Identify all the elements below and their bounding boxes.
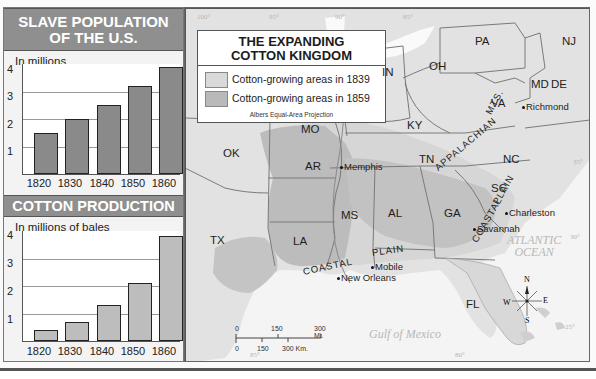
state-label-fl: FL bbox=[466, 298, 479, 310]
state-label-oh: OH bbox=[429, 60, 446, 72]
slave-population-chart bbox=[22, 64, 180, 175]
cotton-ytick-1: 1 bbox=[3, 313, 13, 325]
cotton-ytick-2: 2 bbox=[3, 285, 13, 297]
slave-xtick: 1830 bbox=[55, 177, 85, 189]
state-label-md: MD bbox=[531, 78, 549, 90]
top-strip bbox=[0, 0, 596, 7]
bottom-rule bbox=[0, 368, 596, 379]
gridline bbox=[23, 286, 180, 287]
slave-ytick-1: 1 bbox=[3, 145, 13, 157]
cotton-xtick: 1850 bbox=[118, 345, 148, 357]
scale-mi-150: 150 bbox=[271, 325, 283, 332]
state-label-ar: AR bbox=[305, 160, 321, 172]
bottom-80: 80° bbox=[455, 351, 465, 359]
charts-panel: SLAVE POPULATION OF THE U.S. In millions… bbox=[3, 7, 184, 362]
map-legend: THE EXPANDING COTTON KINGDOM Cotton-grow… bbox=[197, 30, 386, 123]
scale-km-0: 0 bbox=[235, 345, 239, 352]
slave-chart-title-line2: OF THE U.S. bbox=[4, 30, 183, 46]
state-label-in: IN bbox=[382, 66, 394, 78]
bar-1830 bbox=[65, 322, 89, 341]
gridline bbox=[23, 92, 180, 93]
longitude-85: 85° bbox=[403, 13, 413, 21]
cotton-ytick-4: 4 bbox=[3, 229, 13, 241]
legend-divider bbox=[198, 65, 385, 66]
cotton-xtick: 1820 bbox=[24, 345, 54, 357]
bar-1820 bbox=[34, 133, 58, 174]
cotton-chart-title: COTTON PRODUCTION bbox=[4, 195, 183, 217]
compass-rose-icon: N S E W bbox=[507, 278, 547, 324]
state-label-nc: NC bbox=[503, 153, 520, 165]
state-label-ok: OK bbox=[223, 147, 240, 159]
bar-1820 bbox=[34, 330, 58, 341]
gridline bbox=[23, 259, 180, 260]
compass-s: S bbox=[525, 316, 529, 325]
longitude-95: 95° bbox=[269, 13, 279, 21]
bar-1850 bbox=[128, 86, 152, 174]
legend-label-1859: Cotton-growing areas in 1859 bbox=[232, 92, 370, 104]
state-label-ky: KY bbox=[407, 119, 422, 131]
compass-e: E bbox=[543, 296, 548, 305]
gulf-of-mexico-label: Gulf of Mexico bbox=[369, 328, 441, 340]
atlantic-ocean-label: ATLANTIC OCEAN bbox=[507, 234, 561, 258]
legend-swatch-1839 bbox=[205, 72, 228, 88]
slave-ytick-2: 2 bbox=[3, 118, 13, 130]
map-title: THE EXPANDING COTTON KINGDOM bbox=[198, 35, 385, 63]
cotton-production-chart bbox=[22, 231, 180, 342]
atlantic-label-line2: OCEAN bbox=[507, 246, 561, 258]
longitude-90: 90° bbox=[335, 13, 345, 21]
slave-xtick: 1840 bbox=[87, 177, 117, 189]
compass-n: N bbox=[524, 275, 530, 284]
state-label-ga: GA bbox=[444, 207, 461, 219]
city-richmond: Richmond bbox=[522, 101, 569, 112]
slave-chart-title: SLAVE POPULATION OF THE U.S. bbox=[4, 8, 183, 51]
cotton-xtick: 1840 bbox=[87, 345, 117, 357]
bar-1850 bbox=[128, 283, 152, 341]
state-label-mo: MO bbox=[301, 123, 320, 135]
state-label-al: AL bbox=[388, 207, 402, 219]
cotton-xtick: 1830 bbox=[55, 345, 85, 357]
longitude-100: 100° bbox=[197, 13, 210, 21]
projection-note: Albers Equal-Area Projection bbox=[198, 111, 385, 118]
cotton-ytick-3: 3 bbox=[3, 257, 13, 269]
city-mobile: Mobile bbox=[371, 261, 403, 272]
state-label-nj: NJ bbox=[562, 35, 576, 47]
legend-label-1839: Cotton-growing areas in 1839 bbox=[232, 73, 370, 85]
scale-line bbox=[235, 334, 325, 348]
cotton-kingdom-map: 100° 95° 90° 85° 35° 30° 25° 85° 80° THE… bbox=[184, 7, 590, 362]
scale-km-150: 150 bbox=[257, 345, 269, 352]
city-memphis: Memphis bbox=[340, 161, 383, 172]
compass-w: W bbox=[503, 298, 511, 307]
bar-1860 bbox=[159, 67, 183, 174]
slave-ytick-4: 4 bbox=[3, 63, 13, 75]
slave-chart-title-line1: SLAVE POPULATION bbox=[4, 14, 183, 30]
bar-1860 bbox=[159, 236, 183, 341]
state-label-pa: PA bbox=[475, 35, 490, 47]
slave-xtick: 1850 bbox=[118, 177, 148, 189]
map-title-line1: THE EXPANDING bbox=[198, 35, 385, 49]
bar-1840 bbox=[97, 305, 121, 341]
slave-xtick: 1860 bbox=[149, 177, 179, 189]
map-title-line2: COTTON KINGDOM bbox=[198, 49, 385, 63]
scale-bar: 0 150 300 Mi. 0 150 300 Km. bbox=[235, 325, 325, 355]
state-label-tx: TX bbox=[210, 234, 225, 246]
slave-ytick-3: 3 bbox=[3, 90, 13, 102]
slave-xtick: 1820 bbox=[24, 177, 54, 189]
page-frame: SLAVE POPULATION OF THE U.S. In millions… bbox=[0, 0, 596, 379]
city-charleston: Charleston bbox=[505, 207, 555, 218]
scale-mi-0: 0 bbox=[235, 325, 239, 332]
legend-swatch-1859 bbox=[205, 91, 228, 107]
latitude-25: 25° bbox=[565, 323, 575, 331]
bar-1840 bbox=[97, 105, 121, 174]
latitude-35: 35° bbox=[573, 158, 583, 166]
scale-km-300: 300 Km. bbox=[282, 345, 308, 352]
state-label-de: DE bbox=[551, 78, 567, 90]
cotton-xtick: 1860 bbox=[149, 345, 179, 357]
latitude-30: 30° bbox=[570, 233, 580, 241]
bar-1830 bbox=[65, 119, 89, 174]
state-label-la: LA bbox=[293, 235, 307, 247]
city-new-orleans: New Orleans bbox=[337, 272, 396, 283]
state-label-ms: MS bbox=[341, 209, 358, 221]
